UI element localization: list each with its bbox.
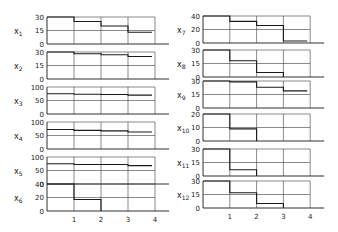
x-tick-label: 2	[99, 216, 103, 224]
y-tick-label: 50	[35, 97, 44, 105]
y-tick-label: 50	[35, 167, 44, 175]
x-tick-label: 3	[126, 216, 130, 224]
step-series-x1	[47, 17, 152, 32]
y-tick-label: 15	[35, 27, 44, 35]
y-tick-label: 15	[191, 159, 200, 167]
y-tick-label: 100	[31, 119, 44, 127]
panel-x8: 01530x8	[177, 47, 324, 82]
variable-label-x11: x11	[177, 159, 190, 169]
y-tick-label: 0	[40, 41, 44, 49]
variable-label-x8: x8	[177, 60, 186, 70]
y-tick-label: 100	[31, 84, 44, 92]
step-series-x9	[203, 81, 307, 91]
step-chart-figure: 01530x101530x2050100x3050100x4050100x502…	[0, 0, 338, 232]
variable-label-x3: x3	[14, 97, 23, 107]
y-tick-label: 100	[31, 154, 44, 162]
x-tick-label: 4	[153, 216, 158, 224]
y-tick-label: 30	[35, 49, 44, 57]
y-tick-label: 20	[191, 111, 200, 119]
y-tick-label: 30	[191, 178, 200, 186]
panel-x1: 01530x1	[14, 14, 169, 49]
y-tick-label: 40	[35, 181, 44, 189]
panel-x7: 02040x7	[177, 13, 324, 48]
step-series-x3	[47, 94, 152, 95]
x-tick-label: 2	[254, 213, 258, 221]
variable-label-x5: x5	[14, 167, 23, 177]
panel-x10: 01020x10	[177, 111, 324, 146]
y-tick-label: 15	[191, 191, 200, 199]
y-tick-label: 30	[35, 14, 44, 22]
step-series-x5	[47, 164, 152, 166]
x-tick-label: 1	[72, 216, 76, 224]
y-tick-label: 30	[191, 146, 200, 154]
y-tick-label: 10	[191, 124, 200, 132]
y-tick-label: 15	[191, 91, 200, 99]
step-series-x2	[47, 52, 152, 57]
y-tick-label: 15	[35, 62, 44, 70]
variable-label-x4: x4	[14, 132, 23, 142]
y-tick-label: 20	[191, 26, 200, 34]
x-tick-label: 3	[281, 213, 285, 221]
y-tick-label: 0	[196, 205, 200, 213]
x-tick-label: 1	[228, 213, 232, 221]
y-tick-label: 0	[40, 146, 44, 154]
panel-x12: 01530x12	[177, 178, 324, 213]
variable-label-x1: x1	[14, 27, 23, 37]
y-tick-label: 40	[191, 13, 200, 21]
panel-x11: 01530x11	[177, 146, 324, 181]
variable-label-x12: x12	[177, 191, 190, 201]
step-series-x7	[203, 16, 307, 41]
variable-label-x7: x7	[177, 26, 186, 36]
y-tick-label: 0	[196, 138, 200, 146]
variable-label-x10: x10	[177, 124, 190, 134]
panel-x2: 01530x2	[14, 49, 169, 84]
variable-label-x6: x6	[14, 194, 23, 204]
x-tick-label: 4	[308, 213, 313, 221]
y-tick-label: 0	[40, 208, 44, 216]
y-tick-label: 15	[191, 60, 200, 68]
panel-x6: 02040x6	[14, 181, 169, 216]
y-tick-label: 20	[35, 194, 44, 202]
panel-x4: 050100x4	[14, 119, 169, 154]
panel-x3: 050100x3	[14, 84, 169, 119]
y-tick-label: 30	[191, 47, 200, 55]
variable-label-x9: x9	[177, 91, 186, 101]
panel-x9: 01530x9	[177, 78, 324, 113]
y-tick-label: 0	[40, 76, 44, 84]
y-tick-label: 0	[40, 111, 44, 119]
y-tick-label: 50	[35, 132, 44, 140]
y-tick-label: 30	[191, 78, 200, 86]
step-series-x4	[47, 130, 152, 132]
variable-label-x2: x2	[14, 62, 23, 72]
